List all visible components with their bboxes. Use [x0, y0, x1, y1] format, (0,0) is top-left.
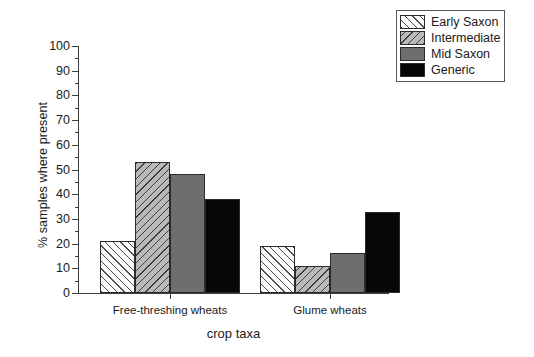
y-tick-minor-75 [75, 108, 78, 109]
x-axis-line [78, 293, 389, 294]
y-tick-mark [72, 244, 78, 245]
y-tick-minor-85 [75, 83, 78, 84]
bar [365, 212, 400, 294]
y-tick-mark [72, 170, 78, 171]
legend-item-mid-saxon: Mid Saxon [400, 46, 500, 62]
legend-label: Generic [431, 64, 475, 77]
y-tick-mark [72, 194, 78, 195]
legend-label: Early Saxon [431, 16, 498, 29]
y-tick-minor-55 [75, 157, 78, 158]
x-tick-label: Free-threshing wheats [113, 304, 227, 316]
y-axis-title: % samples where present [36, 60, 50, 290]
bar [295, 266, 330, 293]
bar [260, 246, 295, 293]
legend-label: Intermediate [431, 32, 500, 45]
y-tick-minor-15 [75, 256, 78, 257]
legend-swatch [400, 47, 425, 61]
x-axis-title: crop taxa [78, 326, 389, 341]
y-tick-minor-5 [75, 281, 78, 282]
x-tick-mark [170, 293, 171, 299]
legend-item-intermediate: Intermediate [400, 30, 500, 46]
bar-chart-figure: % samples where present 0102030405060708… [0, 0, 534, 357]
y-tick-label: 80 [56, 89, 70, 102]
legend-swatch [400, 15, 425, 29]
bar [330, 253, 365, 293]
bar [170, 174, 205, 293]
y-tick-mark [72, 219, 78, 220]
legend-item-generic: Generic [400, 62, 500, 78]
y-tick-minor-45 [75, 182, 78, 183]
x-tick-mark [330, 293, 331, 299]
y-tick-label: 30 [56, 213, 70, 226]
y-tick-label: 60 [56, 139, 70, 152]
y-tick-minor-65 [75, 132, 78, 133]
y-tick-label: 0 [63, 287, 70, 300]
y-tick-label: 10 [56, 262, 70, 275]
legend-label: Mid Saxon [431, 48, 490, 61]
y-tick-mark [72, 293, 78, 294]
y-tick-mark [72, 46, 78, 47]
y-tick-minor-25 [75, 231, 78, 232]
y-tick-mark [72, 95, 78, 96]
y-tick-mark [72, 145, 78, 146]
y-tick-minor-35 [75, 207, 78, 208]
y-tick-mark [72, 120, 78, 121]
y-tick-label: 40 [56, 188, 70, 201]
y-tick-label: 90 [56, 64, 70, 77]
y-tick-mark [72, 268, 78, 269]
y-tick-minor-95 [75, 58, 78, 59]
y-axis-line [78, 46, 79, 294]
bar [135, 162, 170, 293]
y-tick-label: 100 [49, 40, 70, 53]
legend-item-early-saxon: Early Saxon [400, 14, 500, 30]
legend-swatch [400, 63, 425, 77]
y-tick-mark [72, 71, 78, 72]
bar [100, 241, 135, 293]
plot-area: 0102030405060708090100 Free-threshing wh… [78, 46, 388, 293]
y-tick-label: 50 [56, 163, 70, 176]
legend-swatch [400, 31, 425, 45]
bar [205, 199, 240, 293]
y-tick-label: 20 [56, 237, 70, 250]
x-tick-label: Glume wheats [293, 304, 367, 316]
y-tick-label: 70 [56, 114, 70, 127]
chart-legend: Early SaxonIntermediateMid SaxonGeneric [396, 10, 505, 82]
